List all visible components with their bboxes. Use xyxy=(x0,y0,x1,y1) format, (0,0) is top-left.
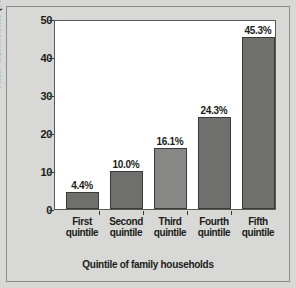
category-label-fifth-quintile: Fifth quintile xyxy=(242,216,274,238)
category-label-line1: Fifth xyxy=(242,216,274,227)
category-label-line2: quintile xyxy=(154,227,186,238)
category-label-line2: quintile xyxy=(66,227,98,238)
category-label-line2: quintile xyxy=(242,227,274,238)
category-label-line1: Second xyxy=(109,216,143,227)
category-label-fourth-quintile: Fourth quintile xyxy=(198,216,230,238)
category-label-second-quintile: Second quintile xyxy=(109,216,143,238)
category-label-line1: Third xyxy=(154,216,186,227)
x-axis-category-labels: First quintile Second quintile Third qui… xyxy=(0,0,296,288)
category-label-line1: Fourth xyxy=(198,216,230,227)
category-label-first-quintile: First quintile xyxy=(66,216,98,238)
category-label-line1: First xyxy=(66,216,98,227)
category-label-line2: quintile xyxy=(109,227,143,238)
chart-figure: After-tax income (%) 50 40 30 20 10 0 4.… xyxy=(0,0,296,288)
category-label-line2: quintile xyxy=(198,227,230,238)
x-axis-title: Quintile of family households xyxy=(82,259,213,270)
category-label-third-quintile: Third quintile xyxy=(154,216,186,238)
